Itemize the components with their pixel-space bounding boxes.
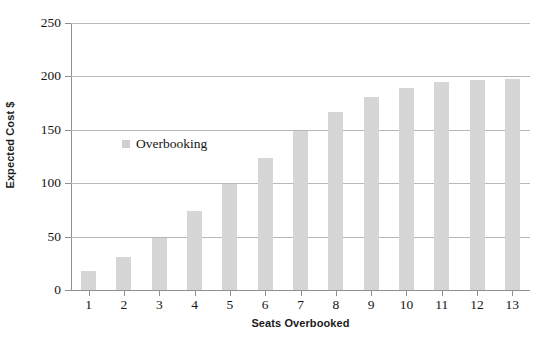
x-tick-mark [406, 291, 407, 296]
x-tick-label: 7 [286, 298, 316, 312]
bar [434, 82, 449, 290]
bar [81, 271, 96, 290]
x-tick-label: 13 [497, 298, 527, 312]
bar [222, 184, 237, 290]
bar [152, 238, 167, 290]
x-tick-mark [336, 291, 337, 296]
x-tick-label: 9 [356, 298, 386, 312]
x-tick-mark [477, 291, 478, 296]
bar [258, 158, 273, 290]
x-tick-mark [89, 291, 90, 296]
legend-swatch-overbooking [122, 140, 130, 148]
x-tick-label: 2 [109, 298, 139, 312]
x-tick-label: 10 [391, 298, 421, 312]
y-tick-label: 150 [19, 123, 61, 137]
x-axis-title: Seats Overbooked [71, 317, 530, 329]
gridline [71, 76, 530, 77]
legend-label-overbooking: Overbooking [136, 137, 207, 151]
bar [293, 131, 308, 290]
chart-legend: Overbooking [122, 137, 207, 151]
x-tick-mark [301, 291, 302, 296]
y-tick-label: 0 [19, 283, 61, 297]
x-tick-label: 5 [215, 298, 245, 312]
x-tick-mark [230, 291, 231, 296]
bar [364, 97, 379, 290]
x-tick-label: 11 [427, 298, 457, 312]
bar [505, 79, 520, 290]
bar [328, 112, 343, 290]
x-tick-mark [159, 291, 160, 296]
x-tick-mark [124, 291, 125, 296]
y-tick-label: 100 [19, 176, 61, 190]
x-tick-label: 4 [180, 298, 210, 312]
x-tick-label: 12 [462, 298, 492, 312]
x-tick-mark [195, 291, 196, 296]
x-tick-mark [442, 291, 443, 296]
x-tick-label: 1 [74, 298, 104, 312]
bar [470, 80, 485, 290]
x-tick-label: 3 [144, 298, 174, 312]
bar [187, 211, 202, 290]
x-tick-mark [265, 291, 266, 296]
x-tick-label: 8 [321, 298, 351, 312]
x-tick-label: 6 [250, 298, 280, 312]
x-tick-mark [512, 291, 513, 296]
plot-area [71, 23, 530, 290]
bar-chart: Expected Cost $ 050100150200250 Overbook… [0, 0, 552, 338]
y-axis-title: Expected Cost $ [0, 0, 20, 290]
bar [116, 257, 131, 290]
y-tick-label: 250 [19, 16, 61, 30]
y-axis-title-label: Expected Cost $ [4, 101, 16, 188]
bar [399, 88, 414, 290]
y-tick-label: 50 [19, 230, 61, 244]
x-tick-mark [371, 291, 372, 296]
y-tick-label: 200 [19, 69, 61, 83]
gridline [71, 23, 530, 24]
